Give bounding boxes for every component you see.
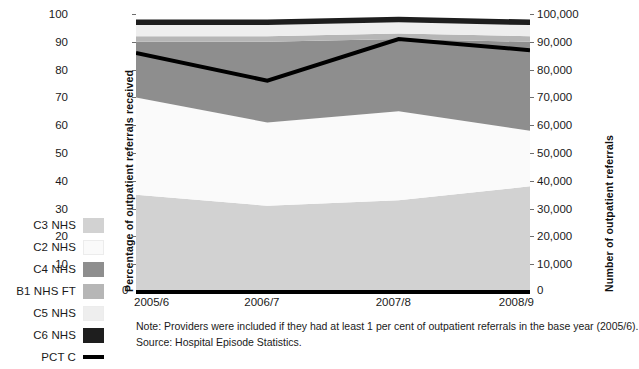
y-axis-right-tickmark: [530, 264, 534, 265]
chart-footnotes: Note: Providers were included if they ha…: [136, 318, 606, 350]
y-axis-right-tick-label: 10,000: [537, 258, 572, 270]
plot-frame: [136, 14, 530, 292]
clipped-title-strip: [150, 0, 570, 7]
legend-item[interactable]: B1 NHS FT: [0, 280, 104, 302]
legend-item[interactable]: C5 NHS: [0, 302, 104, 324]
x-axis-tick-label: 2006/7: [244, 296, 279, 308]
y-axis-right-tickmark: [530, 181, 534, 182]
legend-swatch-c3-nhs: [83, 218, 104, 233]
y-axis-right-tick-label: 50,000: [537, 147, 572, 159]
y-axis-right-tick-label: 30,000: [537, 203, 572, 215]
y-axis-right-tickmark: [530, 125, 534, 126]
y-axis-left-tickmark: [132, 14, 136, 15]
y-axis-left-tick-label: 10: [55, 258, 68, 270]
legend-item-label: C3 NHS: [33, 219, 83, 231]
y-axis-left-tickmark: [132, 236, 136, 237]
y-axis-left-tick-label: 30: [55, 203, 68, 215]
y-axis-left-tick-label: 90: [55, 36, 68, 48]
y-axis-left-tick-label: 100: [49, 8, 68, 20]
legend-item[interactable]: C2 NHS: [0, 236, 104, 258]
y-axis-right-tick-label: 20,000: [537, 230, 572, 242]
legend-item[interactable]: PCT C: [0, 346, 104, 368]
y-axis-left-tick-label: 20: [55, 230, 68, 242]
y-axis-left-tick-label: 60: [55, 119, 68, 131]
y-axis-left-tickmark: [132, 209, 136, 210]
y-axis-left-tickmark: [132, 181, 136, 182]
y-axis-left-tickmark: [132, 153, 136, 154]
chart-legend: C3 NHSC2 NHSC4 NHSB1 NHS FTC5 NHSC6 NHSP…: [0, 214, 104, 368]
legend-item-label: C6 NHS: [33, 329, 83, 341]
legend-swatch-c4-nhs: [83, 262, 104, 277]
y-axis-left-tickmark: [132, 97, 136, 98]
x-axis-line: [136, 290, 530, 294]
y-axis-left-tick-label: 40: [55, 175, 68, 187]
x-axis-tick-label: 2007/8: [376, 296, 411, 308]
y-axis-right-tick-label: 40,000: [537, 175, 572, 187]
y-axis-right-tickmark: [530, 209, 534, 210]
y-axis-right-tick-label: 70,000: [537, 91, 572, 103]
legend-item[interactable]: C3 NHS: [0, 214, 104, 236]
y-axis-left-tickmark: [132, 42, 136, 43]
legend-swatch-c6-nhs: [83, 328, 104, 343]
y-axis-left-tickmark: [132, 264, 136, 265]
legend-item-label: C2 NHS: [33, 241, 83, 253]
y-axis-right-tick-label: 80,000: [537, 64, 572, 76]
legend-item-label: C5 NHS: [33, 307, 83, 319]
y-axis-right-tick-label: 90,000: [537, 36, 572, 48]
y-axis-left-tickmark: [132, 70, 136, 71]
footnote-source: Source: Hospital Episode Statistics.: [136, 334, 606, 350]
legend-swatch-pct-c: [83, 355, 104, 359]
y-axis-right-tickmark: [530, 14, 534, 15]
y-axis-right-tickmark: [530, 97, 534, 98]
y-axis-left-tick-label: 80: [55, 64, 68, 76]
chart-svg: [136, 14, 530, 292]
x-axis-tick-label: 2008/9: [499, 296, 534, 308]
y-axis-right-zero-label: 0: [537, 284, 543, 296]
legend-item[interactable]: C6 NHS: [0, 324, 104, 346]
y-axis-right-tickmark: [530, 236, 534, 237]
legend-swatch-c2-nhs: [83, 240, 104, 255]
y-axis-left-tickmark: [132, 125, 136, 126]
plot-area: [136, 14, 530, 292]
footnote-note: Note: Providers were included if they ha…: [136, 318, 606, 334]
y-axis-left-tick-label: 70: [55, 91, 68, 103]
x-axis-tick-label: 2005/6: [134, 296, 169, 308]
y-axis-right-tickmark: [530, 70, 534, 71]
y-axis-right-title: Number of outpatient referrals: [603, 135, 615, 292]
legend-item-label: B1 NHS FT: [16, 285, 83, 297]
legend-swatch-c5-nhs: [83, 306, 104, 321]
legend-item-label: PCT C: [41, 351, 83, 363]
y-axis-right-tickmark: [530, 42, 534, 43]
legend-swatch-b1-nhs-ft: [83, 284, 104, 299]
y-axis-right-tickmark: [530, 153, 534, 154]
y-axis-right-tick-label: 60,000: [537, 119, 572, 131]
y-axis-left-tick-label: 50: [55, 147, 68, 159]
y-axis-right-tick-label: 100,000: [537, 8, 579, 20]
legend-item[interactable]: C4 NHS: [0, 258, 104, 280]
